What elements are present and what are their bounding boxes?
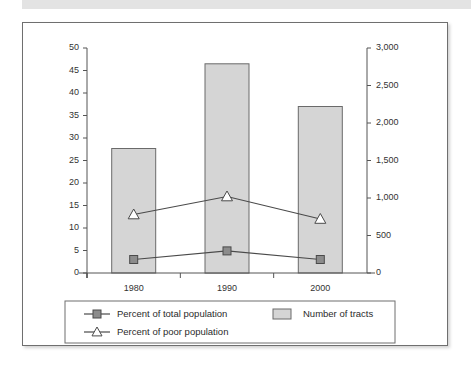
legend-label: Percent of total population [117,308,227,319]
y-axis-left-label: 5 [74,245,79,255]
y-axis-left-label: 45 [69,65,79,75]
y-axis-right-ticks: 05001,0001,5002,0002,5003,000 [367,42,399,277]
y-axis-right-label: 0 [376,267,381,277]
y-axis-left-label: 35 [69,110,79,120]
bar-1990 [205,64,249,273]
y-axis-right-label: 2,000 [376,117,399,127]
figure-frame: 05101520253035404550 05001,0001,5002,000… [22,22,448,346]
marker-square-1980 [130,256,138,264]
marker-square-1990 [223,247,231,255]
y-axis-left-label: 50 [69,42,79,52]
y-axis-right-label: 500 [376,230,391,240]
y-axis-left-label: 30 [69,132,79,142]
marker-square-2000 [316,256,324,264]
top-banner-strip [22,0,471,9]
bar-series-number-of-tracts [112,64,343,273]
x-axis-label-1980: 1980 [124,283,144,293]
legend-swatch-bar [273,309,291,319]
y-axis-right-label: 1,500 [376,155,399,165]
bar-2000 [298,107,342,274]
y-axis-left-ticks: 05101520253035404550 [69,42,87,277]
y-axis-left-label: 25 [69,155,79,165]
legend-label: Percent of poor population [117,326,228,337]
y-axis-right-label: 3,000 [376,42,399,52]
y-axis-left-label: 15 [69,200,79,210]
y-axis-right-label: 1,000 [376,192,399,202]
y-axis-left-label: 40 [69,87,79,97]
legend-marker-square [93,310,101,318]
legend: Percent of total populationNumber of tra… [65,301,395,343]
chart-canvas: 05101520253035404550 05001,0001,5002,000… [23,23,449,347]
legend-label: Number of tracts [303,308,373,319]
x-axis-label-1990: 1990 [217,283,237,293]
y-axis-right-label: 2,500 [376,80,399,90]
x-axis-label-2000: 2000 [310,283,330,293]
y-axis-left-label: 0 [74,267,79,277]
x-axis-ticks: 198019902000 [87,273,330,293]
y-axis-left-label: 10 [69,222,79,232]
y-axis-left-label: 20 [69,177,79,187]
